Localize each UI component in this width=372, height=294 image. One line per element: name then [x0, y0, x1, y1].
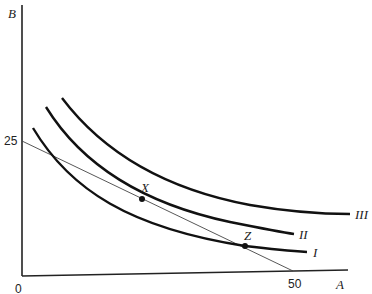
origin-label: 0	[15, 283, 22, 294]
x-axis	[22, 270, 348, 276]
x-axis-label: A	[336, 278, 344, 291]
point-z-marker	[242, 243, 248, 249]
point-z-label: Z	[244, 229, 251, 242]
y-axis-label: B	[8, 7, 16, 20]
x-tick-50: 50	[288, 278, 301, 290]
indifference-curve-i	[33, 128, 307, 252]
curve-iii-label: III	[355, 208, 368, 221]
curve-i-label: I	[313, 246, 317, 259]
y-tick-25: 25	[4, 135, 17, 147]
point-x-label: X	[141, 181, 149, 194]
curve-ii-label: II	[299, 228, 308, 241]
indifference-curve-iii	[62, 98, 350, 214]
point-x-marker	[139, 196, 145, 202]
